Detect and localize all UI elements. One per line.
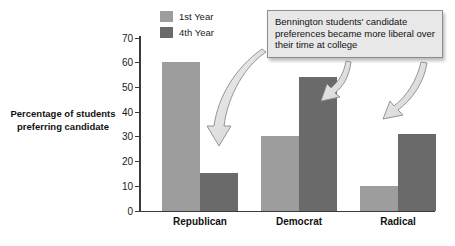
legend-label-1st-year: 1st Year	[179, 11, 213, 22]
x-axis-line	[139, 211, 435, 213]
legend-item-1st-year: 1st Year	[160, 9, 270, 23]
y-tick-label-40: 40	[122, 106, 133, 117]
annotation-callout: Bennington students' candidate preferenc…	[267, 10, 443, 58]
x-axis-label-republican: Republican	[173, 216, 227, 227]
y-tick-label-10: 10	[122, 180, 133, 191]
bar-radical-1st-year	[360, 186, 398, 211]
legend-swatch-1st-year	[160, 11, 173, 22]
y-axis-title-line-2: preferring candidate	[4, 121, 122, 134]
y-tick-label-0: 0	[127, 205, 133, 216]
bar-republican-1st-year	[162, 62, 200, 210]
y-tick-label-50: 50	[122, 81, 133, 92]
y-axis-title-line-1: Percentage of students	[4, 108, 122, 121]
y-tick-label-20: 20	[122, 156, 133, 167]
x-axis-label-radical: Radical	[380, 216, 416, 227]
y-axis-title: Percentage of students preferring candid…	[4, 108, 122, 133]
bar-democrat-1st-year	[261, 136, 299, 210]
bar-democrat-4th-year	[299, 77, 337, 211]
x-axis-label-democrat: Democrat	[276, 216, 322, 227]
bar-radical-4th-year	[398, 134, 436, 211]
y-tick-label-60: 60	[122, 57, 133, 68]
y-axis-line	[139, 36, 141, 212]
y-tick-label-70: 70	[122, 32, 133, 43]
plot-area: 70 60 50 40 30 20 10 0	[139, 36, 435, 212]
bar-republican-4th-year	[200, 173, 238, 210]
y-tick-label-30: 30	[122, 131, 133, 142]
bar-chart-figure: Percentage of students preferring candid…	[0, 0, 455, 246]
